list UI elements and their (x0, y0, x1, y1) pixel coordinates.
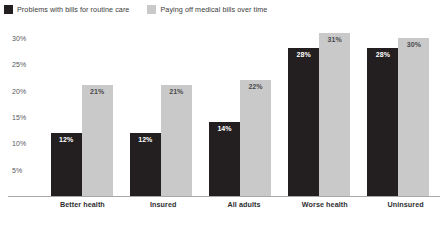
bar-value-label: 12% (51, 136, 82, 143)
bar-group: 28%31% (280, 22, 359, 196)
y-tick-label: 5% (12, 166, 22, 173)
bar-value-label: 22% (240, 83, 271, 90)
legend-item-paying-off-bills[interactable]: Paying off medical bills over time (147, 2, 267, 16)
y-tick-label: 15% (12, 113, 26, 120)
bar-value-label: 28% (367, 51, 398, 58)
bar-paying-off[interactable]: 21% (82, 85, 113, 196)
bar-value-label: 30% (398, 41, 429, 48)
legend-label-paying-off-bills: Paying off medical bills over time (160, 5, 267, 14)
bar-paying-off[interactable]: 31% (319, 33, 350, 196)
x-axis-category-label: All adults (204, 200, 285, 209)
bar-problems[interactable]: 14% (209, 122, 240, 196)
bar-group: 12%21% (42, 22, 121, 196)
bar-group: 12%21% (121, 22, 200, 196)
bar-group: 28%30% (359, 22, 438, 196)
bar-value-label: 12% (130, 136, 161, 143)
bar-problems[interactable]: 28% (367, 48, 398, 196)
x-axis-category-label: Uninsured (365, 200, 446, 209)
plot-area: 5%10%15%20%25%30% 12%21%12%21%14%22%28%3… (8, 22, 440, 197)
bar-value-label: 31% (319, 36, 350, 43)
y-tick-label: 30% (12, 34, 26, 41)
bar-groups: 12%21%12%21%14%22%28%31%28%30% (42, 22, 438, 196)
bar-chart: Problems with bills for routine care Pay… (0, 0, 448, 234)
bar-value-label: 28% (288, 51, 319, 58)
y-tick-label: 10% (12, 140, 26, 147)
bar-problems[interactable]: 28% (288, 48, 319, 196)
legend-swatch-light-icon (147, 5, 156, 14)
legend-label-problems-with-bills: Problems with bills for routine care (17, 5, 129, 14)
bar-value-label: 14% (209, 125, 240, 132)
bar-paying-off[interactable]: 22% (240, 80, 271, 196)
y-tick-label: 25% (12, 61, 26, 68)
x-axis-line (8, 196, 440, 197)
bar-group: 14%22% (200, 22, 279, 196)
legend-swatch-dark-icon (4, 5, 13, 14)
bar-problems[interactable]: 12% (51, 133, 82, 196)
x-axis-labels: Better healthInsuredAll adultsWorse heal… (42, 200, 446, 209)
x-axis-category-label: Worse health (284, 200, 365, 209)
y-tick-label: 20% (12, 87, 26, 94)
chart-legend: Problems with bills for routine care Pay… (4, 2, 267, 16)
bar-value-label: 21% (161, 88, 192, 95)
bar-paying-off[interactable]: 30% (398, 38, 429, 196)
x-axis-category-label: Insured (123, 200, 204, 209)
bar-value-label: 21% (82, 88, 113, 95)
bar-paying-off[interactable]: 21% (161, 85, 192, 196)
bar-problems[interactable]: 12% (130, 133, 161, 196)
legend-item-problems-with-bills[interactable]: Problems with bills for routine care (4, 2, 129, 16)
x-axis-category-label: Better health (42, 200, 123, 209)
